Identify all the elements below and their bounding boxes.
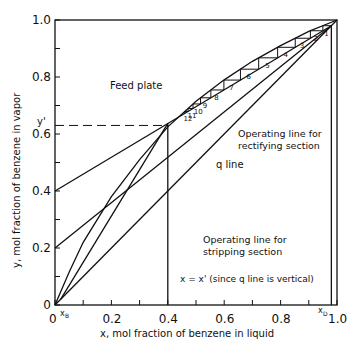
plate-number-label: 7 xyxy=(229,84,233,92)
y-tick-label: 0.6 xyxy=(32,127,51,141)
feed-plate-label: Feed plate xyxy=(110,80,162,91)
x-tick-label: 0.2 xyxy=(102,312,121,326)
y-prime-label: y' xyxy=(37,116,46,127)
x-tick-label: 0.6 xyxy=(215,312,234,326)
y-axis-title: y, mol fraction of benzene in vapor xyxy=(11,92,22,268)
x-tick-label: 0.8 xyxy=(272,312,291,326)
mccabe-thiele-chart: 00.20.40.60.81.000.20.40.60.81.0 1234567… xyxy=(0,0,360,353)
operating-line-for-stripping-section-line xyxy=(61,123,168,299)
x-tick-label: 1.0 xyxy=(328,312,347,326)
vertical-note-label: x = x' (since q line is vertical) xyxy=(180,274,314,284)
plate-number-label: 4 xyxy=(283,51,288,59)
plate-number-label: 2 xyxy=(314,35,318,43)
y-tick-label: 0.8 xyxy=(32,70,51,84)
plate-number-label: 8 xyxy=(214,94,218,102)
diagonal-y-x-line xyxy=(55,20,337,305)
y-tick-label: 1.0 xyxy=(32,13,51,27)
plate-steps: 123456789101112 xyxy=(183,26,331,124)
y-tick-label: 0.2 xyxy=(32,241,51,255)
x-axis-title: x, mol fraction of benzene in liquid xyxy=(100,328,274,339)
plate-number-label: 1 xyxy=(324,30,328,38)
plate-number-label: 9 xyxy=(203,102,207,110)
y-tick-label: 0.4 xyxy=(32,184,51,198)
curves xyxy=(55,20,337,305)
plate-number-label: 6 xyxy=(247,73,252,81)
plate-number-label: 5 xyxy=(265,62,269,70)
stripping-label-1: Operating line for xyxy=(203,234,287,245)
rectifying-label-2: rectifying section xyxy=(238,140,320,151)
xd-subscript: D xyxy=(323,310,328,317)
q-line-label: q line xyxy=(216,159,244,170)
rectifying-label-1: Operating line for xyxy=(238,128,322,139)
x-tick-label: 0.4 xyxy=(159,312,178,326)
stripping-label-2: stripping section xyxy=(203,246,282,257)
y-tick-label: 0 xyxy=(43,298,51,312)
xb-subscript: B xyxy=(65,312,69,319)
plate-number-label: 12 xyxy=(183,115,192,123)
x-tick-label: 0 xyxy=(49,312,57,326)
plate-number-label: 3 xyxy=(300,42,304,50)
